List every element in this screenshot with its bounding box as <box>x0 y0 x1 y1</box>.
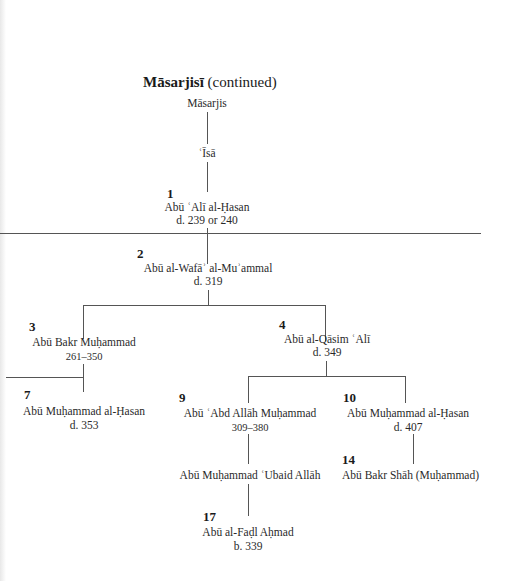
node-9-name: Abū ʿAbd Allāh Muḥammad <box>184 407 317 420</box>
family-name: Māsarjisī <box>143 74 204 90</box>
node-7-number: 7 <box>24 388 31 402</box>
connector-line <box>207 112 208 144</box>
diagram-title: Māsarjisī (continued) <box>143 74 277 91</box>
node-9-number: 9 <box>179 391 186 405</box>
node-17-dates: b. 339 <box>234 540 263 553</box>
node-1-number: 1 <box>167 187 174 201</box>
node-14-number: 14 <box>342 453 355 467</box>
connector-line <box>248 484 249 516</box>
node-7-dates: d. 353 <box>70 419 99 432</box>
page-edge-shadow <box>0 0 6 581</box>
node-4-dates: d. 349 <box>313 346 342 359</box>
node-3-dates: 261–350 <box>66 350 103 363</box>
connector-line <box>413 434 414 464</box>
connector-line <box>208 290 209 305</box>
node-masarjis: Māsarjis <box>187 97 227 110</box>
node-10-name: Abū Muḥammad al-Ḥasan <box>347 407 469 420</box>
connector-line <box>248 434 249 464</box>
node-3-name: Abū Bakr Muḥammad <box>32 336 135 349</box>
node-4-name: Abū al-Qāsim ʿAlī <box>284 333 370 346</box>
node-10-number: 10 <box>343 391 356 405</box>
connector-line <box>83 305 84 339</box>
node-3-number: 3 <box>29 320 36 334</box>
node-14-name: Abū Bakr Shāh (Muḥammad) <box>342 469 479 482</box>
node-isa: ʿĪsā <box>198 147 215 160</box>
branch-line <box>83 305 325 306</box>
node-2-number: 2 <box>137 247 144 261</box>
node-1-dates: d. 239 or 240 <box>176 214 237 227</box>
connector-line <box>326 361 327 376</box>
connector-line <box>248 376 249 403</box>
node-7-name: Abū Muḥammad al-Ḥasan <box>23 405 145 418</box>
node-17-number: 17 <box>203 510 216 524</box>
node-10-dates: d. 407 <box>394 421 423 434</box>
node-4-number: 4 <box>279 318 286 332</box>
page-divider-line <box>0 233 481 234</box>
branch-line <box>248 376 406 377</box>
node-2-dates: d. 319 <box>194 275 223 288</box>
title-suffix: (continued) <box>208 74 277 90</box>
node-2-name: Abū al-Wafāʾ al-Muʾammal <box>144 262 273 275</box>
connector-line <box>405 376 406 403</box>
node-9-dates: 309–380 <box>232 421 269 434</box>
node-ubaid-allah: Abū Muḥammad ʿUbaid Allāh <box>180 469 321 482</box>
cross-page-line <box>6 377 83 378</box>
connector-line <box>207 228 208 264</box>
connector-line <box>83 364 84 392</box>
connector-line <box>207 162 208 192</box>
node-1-name: Abū ʿAlī al-Ḥasan <box>165 201 250 214</box>
node-17-name: Abū al-Faḍl Aḥmad <box>202 526 293 539</box>
